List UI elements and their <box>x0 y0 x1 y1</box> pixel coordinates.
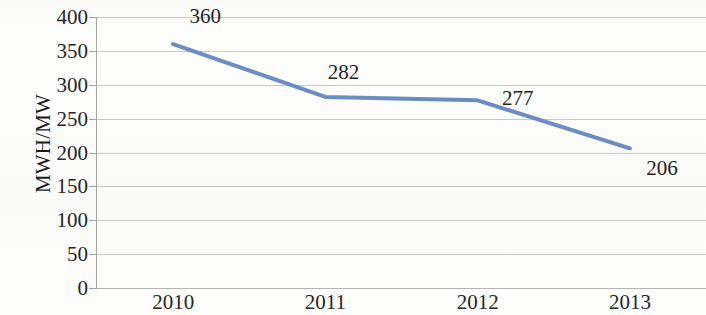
x-tick-label: 2011 <box>265 292 385 313</box>
y-tick-label: 200 <box>42 142 88 163</box>
plot-area <box>97 17 706 288</box>
y-tick-label: 350 <box>42 40 88 61</box>
data-label: 282 <box>328 61 360 82</box>
y-tick-label: 300 <box>42 74 88 95</box>
data-label: 277 <box>502 88 534 109</box>
series-line-mwh-per-mw <box>97 17 706 288</box>
x-tick-label: 2013 <box>570 292 690 313</box>
y-axis-tick-labels: 050100150200250300350400 <box>36 0 88 315</box>
y-tick-mark <box>89 288 97 289</box>
y-tick-label: 400 <box>42 7 88 28</box>
y-tick-label: 150 <box>42 176 88 197</box>
series-polyline <box>173 44 630 148</box>
y-tick-label: 250 <box>42 108 88 129</box>
x-tick-label: 2012 <box>418 292 538 313</box>
y-tick-label: 100 <box>42 210 88 231</box>
chart-figure: MWH/MW 050100150200250300350400 36028227… <box>0 0 706 315</box>
x-axis-tick-labels: 2010201120122013 <box>97 288 706 315</box>
y-tick-label: 50 <box>42 244 88 265</box>
data-label: 206 <box>646 158 678 179</box>
y-tick-label: 0 <box>42 278 88 299</box>
x-tick-label: 2010 <box>113 292 233 313</box>
data-label: 360 <box>189 6 221 27</box>
